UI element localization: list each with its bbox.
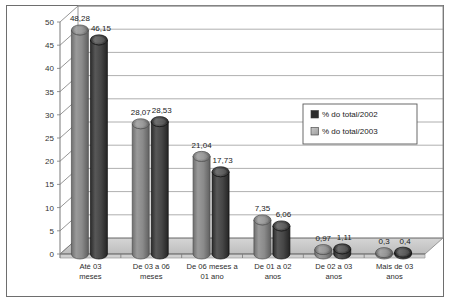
chart-container: 05101520253035404550 48,2846,1528,0728,5… xyxy=(0,0,452,304)
data-label-2003-cat3: 6,06 xyxy=(276,210,292,219)
category-label-5: Mais de 03 xyxy=(376,262,413,271)
y-axis-tick-label: 15 xyxy=(45,180,54,189)
legend-swatch-0 xyxy=(311,111,319,119)
bar-body xyxy=(71,30,88,259)
chart-category-labels: Até 03mesesDe 03 a 06mesesDe 06 meses a0… xyxy=(79,262,413,281)
bar-2003-cat4 xyxy=(334,244,351,259)
bar-cap-highlight xyxy=(378,250,390,256)
y-axis-tick-label: 30 xyxy=(45,111,54,120)
bar-2002-cat1 xyxy=(132,119,149,259)
data-label-2003-cat5: 0,4 xyxy=(400,237,412,246)
bar-cap-highlight xyxy=(214,169,226,175)
bar-body xyxy=(90,40,107,259)
bar-body xyxy=(254,220,271,259)
bar-cap-highlight xyxy=(256,217,268,223)
bar-2002-cat0 xyxy=(71,25,88,259)
bar-cap-highlight xyxy=(317,246,329,252)
legend-swatch-1 xyxy=(311,128,319,136)
bar-2002-cat3 xyxy=(254,215,271,259)
y-axis-tick-label: 45 xyxy=(45,41,54,50)
legend-label-1: % do total/2003 xyxy=(322,127,378,136)
legend-label-0: % do total/2002 xyxy=(322,110,378,119)
y-axis-tick-label: 20 xyxy=(45,157,54,166)
bar-cap-highlight xyxy=(74,27,86,33)
category-label-5: anos xyxy=(386,272,403,281)
bar-2002-cat5 xyxy=(376,248,393,259)
y-axis-tick-label: 0 xyxy=(50,250,55,259)
y-axis-tick-label: 5 xyxy=(50,227,55,236)
category-label-1: De 03 a 06 xyxy=(133,262,170,271)
bar-body xyxy=(212,172,229,259)
data-label-2003-cat4: 1,11 xyxy=(337,233,353,242)
data-label-2002-cat4: 0,97 xyxy=(315,234,331,243)
data-label-2002-cat1: 28,07 xyxy=(131,108,152,117)
category-label-4: De 02 a 03 xyxy=(315,262,352,271)
data-label-2002-cat0: 48,28 xyxy=(70,14,91,23)
bar-cap-highlight xyxy=(195,153,207,159)
data-label-2002-cat3: 7,35 xyxy=(255,204,271,213)
bar-body xyxy=(151,122,168,259)
bar-cap-highlight xyxy=(135,121,147,127)
data-label-2002-cat5: 0,3 xyxy=(379,237,391,246)
y-axis-tick-label: 25 xyxy=(45,134,54,143)
category-label-0: Até 03 xyxy=(79,262,101,271)
bar-cap-highlight xyxy=(275,223,287,229)
y-axis-tick-label: 35 xyxy=(45,88,54,97)
category-label-2: 01 ano xyxy=(200,272,223,281)
bar-2003-cat3 xyxy=(273,221,290,259)
bar-cap-highlight xyxy=(154,119,166,125)
bar-cap-highlight xyxy=(397,249,409,255)
chart-legend: % do total/2002% do total/2003 xyxy=(303,104,417,144)
category-label-1: meses xyxy=(140,272,163,281)
y-axis-tick-label: 40 xyxy=(45,64,54,73)
data-label-2002-cat2: 21,04 xyxy=(192,141,213,150)
bar-2002-cat4 xyxy=(315,244,332,259)
bar-body xyxy=(193,156,210,259)
bar-cap-highlight xyxy=(93,37,105,43)
data-label-2003-cat2: 17,73 xyxy=(213,156,234,165)
y-axis-tick-label: 10 xyxy=(45,204,54,213)
bar-2003-cat2 xyxy=(212,167,229,259)
category-label-0: meses xyxy=(79,272,102,281)
category-label-4: anos xyxy=(326,272,343,281)
data-label-2003-cat0: 46,15 xyxy=(91,24,112,33)
bar-2003-cat5 xyxy=(395,247,412,259)
bar-body xyxy=(132,124,149,259)
bar-2003-cat1 xyxy=(151,117,168,259)
y-axis-tick-label: 50 xyxy=(45,18,54,27)
bar-2003-cat0 xyxy=(90,35,107,259)
data-label-2003-cat1: 28,53 xyxy=(152,106,173,115)
chart-y-tick-labels: 05101520253035404550 xyxy=(45,18,54,259)
bar-cap-highlight xyxy=(336,246,348,252)
bar-2002-cat2 xyxy=(193,151,210,259)
category-label-3: anos xyxy=(265,272,282,281)
category-label-3: De 01 a 02 xyxy=(254,262,291,271)
category-label-2: De 06 meses a xyxy=(187,262,239,271)
chart-plot-svg: 05101520253035404550 48,2846,1528,0728,5… xyxy=(0,0,452,304)
